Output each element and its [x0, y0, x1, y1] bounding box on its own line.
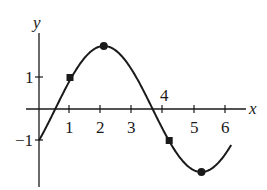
circle-marker	[100, 42, 108, 50]
x-tick-label-6: 6	[221, 118, 230, 137]
y-tick-label-neg1: −1	[15, 131, 33, 150]
y-axis-label: y	[31, 13, 41, 32]
x-tick-label-2: 2	[96, 118, 105, 137]
x-tick-label-5: 5	[190, 118, 199, 137]
y-tick-label-1: 1	[25, 68, 34, 87]
circle-marker	[197, 168, 205, 176]
sine-chart: y x 1 2 3 4 5 6 1 −1	[0, 0, 267, 190]
x-axis-label: x	[248, 99, 257, 118]
x-tick-label-1: 1	[65, 118, 74, 137]
square-marker	[67, 74, 74, 81]
x-tick-label-3: 3	[127, 118, 136, 137]
x-tick-label-4: 4	[160, 86, 169, 105]
square-marker	[166, 137, 173, 144]
